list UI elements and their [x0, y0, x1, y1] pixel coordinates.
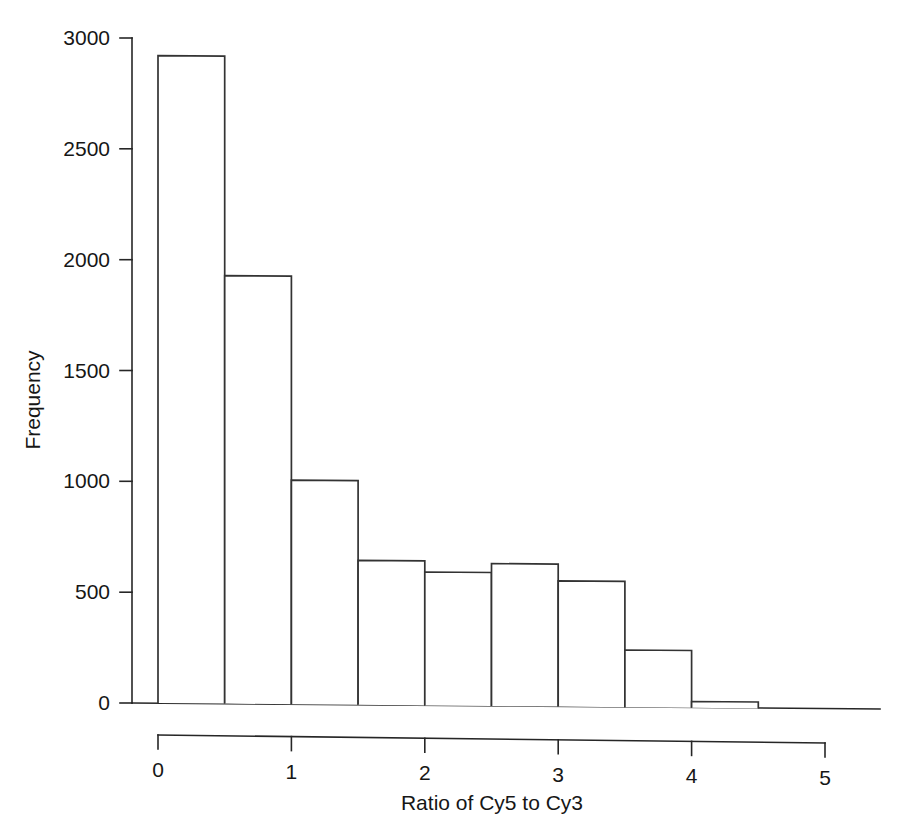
histogram-figure: 050010001500200025003000 Frequency 01234… [0, 0, 911, 835]
histogram-bar [225, 276, 292, 705]
histogram-bar [625, 650, 692, 708]
x-tick-label-0: 0 [152, 758, 164, 781]
y-tick-label-2000: 2000 [63, 248, 110, 271]
histogram-bar [158, 56, 225, 704]
x-axis-title: Ratio of Cy5 to Cy3 [401, 791, 583, 814]
y-tick-label-500: 500 [75, 580, 110, 603]
x-tick-label-3: 3 [552, 763, 564, 786]
x-tick-label-4: 4 [686, 764, 698, 787]
y-tick-label-3000: 3000 [63, 26, 110, 49]
histogram-bar [291, 480, 358, 705]
x-axis-line [158, 735, 825, 743]
x-tick-label-1: 1 [286, 760, 298, 783]
y-tick-label-1000: 1000 [63, 469, 110, 492]
y-axis-tick-labels: 050010001500200025003000 [63, 26, 110, 714]
histogram-bar [558, 581, 625, 707]
x-axis-tick-labels: 012345 [152, 758, 831, 789]
y-tick-label-2500: 2500 [63, 137, 110, 160]
histogram-plot: 050010001500200025003000 Frequency 01234… [0, 0, 911, 835]
histogram-bar [425, 572, 492, 706]
x-tick-label-2: 2 [419, 761, 431, 784]
y-axis-title: Frequency [21, 350, 44, 450]
histogram-bar [692, 702, 759, 709]
histogram-bar [492, 564, 559, 707]
x-tick-label-5: 5 [819, 766, 831, 789]
y-axis-ticks [120, 38, 132, 703]
histogram-bar [358, 560, 425, 705]
y-axis: 050010001500200025003000 Frequency [21, 26, 132, 714]
y-tick-label-0: 0 [98, 691, 110, 714]
x-axis: 012345 Ratio of Cy5 to Cy3 [152, 735, 831, 814]
histogram-bars [158, 56, 758, 709]
y-tick-label-1500: 1500 [63, 359, 110, 382]
